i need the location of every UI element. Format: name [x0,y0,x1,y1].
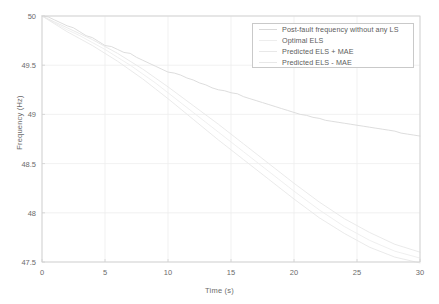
x-tick-label-3: 15 [227,268,235,277]
figure-canvas: Frequency (Hz) Time (s) 051015202530 47.… [0,0,439,304]
y-tick-label-2: 48.5 [6,159,36,168]
legend-item-label: Optimal ELS [282,36,323,45]
legend-line-sample-icon [259,62,277,63]
y-tick-label-4: 49.5 [6,61,36,70]
x-axis-label: Time (s) [0,286,439,295]
legend-item-label: Predicted ELS - MAE [282,58,352,67]
legend-line-sample-icon [259,29,277,30]
x-tick-label-6: 30 [416,268,424,277]
x-tick-label-2: 10 [164,268,172,277]
legend-line-sample-icon [259,40,277,41]
y-tick-label-3: 49 [6,110,36,119]
legend-item-label: Post-fault frequency without any LS [282,25,399,34]
legend-item-2: Predicted ELS + MAE [253,46,413,57]
x-tick-label-0: 0 [40,268,44,277]
legend-item-3: Predicted ELS - MAE [253,57,413,68]
x-tick-label-1: 5 [103,268,107,277]
legend-item-0: Post-fault frequency without any LS [253,24,413,35]
legend-line-sample-icon [259,51,277,52]
x-tick-label-5: 25 [353,268,361,277]
y-tick-label-5: 50 [6,12,36,21]
legend-item-label: Predicted ELS + MAE [282,47,354,56]
y-axis-label: Frequency (Hz) [15,73,24,173]
chart-legend: Post-fault frequency without any LSOptim… [252,23,414,68]
x-tick-label-4: 20 [290,268,298,277]
y-tick-label-0: 47.5 [6,258,36,267]
legend-item-1: Optimal ELS [253,35,413,46]
y-tick-label-1: 48 [6,208,36,217]
